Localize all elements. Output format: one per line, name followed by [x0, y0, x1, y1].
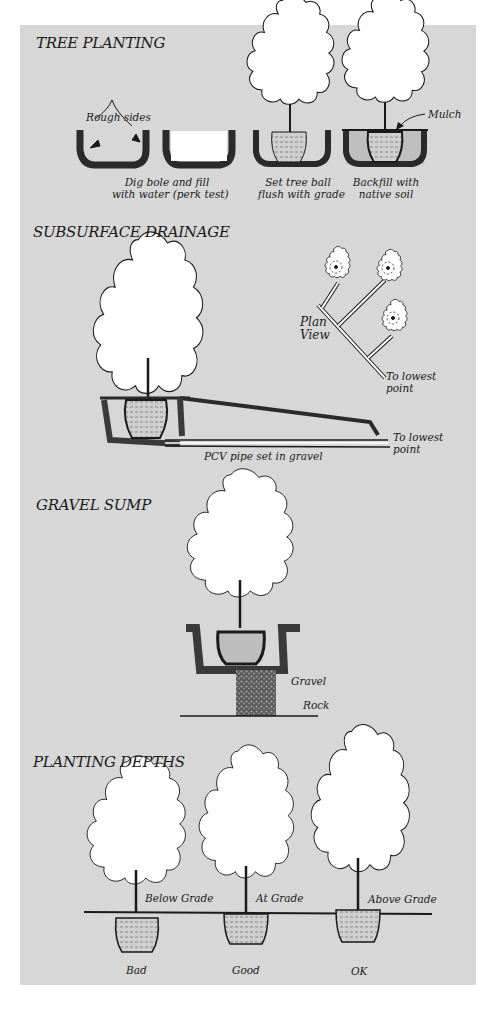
label-at-grade: At Grade: [256, 892, 304, 904]
section-title-subsurface-drainage: SUBSURFACE DRAINAGE: [33, 223, 230, 241]
label-good: Good: [232, 964, 260, 976]
section-title-gravel-sump: GRAVEL SUMP: [36, 496, 151, 514]
label-to-lowest-point-section: To lowest point: [393, 431, 443, 455]
hole-filled-water: [166, 130, 232, 165]
label-bad: Bad: [126, 964, 147, 976]
tree-backfilled: [342, 0, 429, 164]
label-backfill: Backfill with native soil: [346, 176, 426, 200]
label-mulch: Mulch: [428, 108, 462, 120]
section-title-planting-depths: PLANTING DEPTHS: [33, 753, 185, 771]
label-dig-hole: Dig bole and fill with water (perk test): [112, 176, 222, 200]
hole-rough-sides: [80, 100, 146, 165]
drainage-plan-view: [318, 246, 407, 378]
label-rough-sides: Rough sides: [86, 111, 151, 123]
label-plan-view: Plan View: [300, 316, 330, 342]
label-below-grade: Below Grade: [145, 892, 214, 904]
section-title-tree-planting: TREE PLANTING: [36, 34, 165, 52]
label-set-tree-ball: Set tree ball flush with grade: [258, 176, 338, 200]
label-rock: Rock: [303, 699, 329, 711]
label-ok: OK: [351, 965, 367, 977]
label-gravel: Gravel: [291, 675, 326, 687]
tree-set-flush: [247, 0, 334, 164]
label-pcv-pipe: PCV pipe set in gravel: [204, 450, 323, 462]
label-to-lowest-point-plan: To lowest point: [386, 370, 436, 394]
label-above-grade: Above Grade: [368, 893, 437, 905]
